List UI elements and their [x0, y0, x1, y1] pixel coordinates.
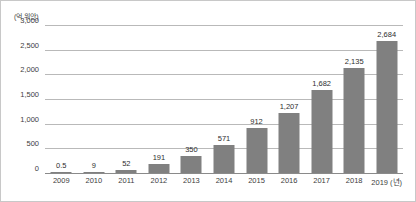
y-tick-label: 1,500	[5, 90, 39, 99]
y-tick-label: 2,000	[5, 65, 39, 74]
y-tick-label: 3,000	[5, 16, 39, 25]
bar-value-label: 2,135	[345, 57, 364, 66]
bar-slot: 1,207	[273, 25, 306, 173]
x-axis-line	[45, 173, 403, 174]
bar-value-label: 350	[185, 145, 198, 154]
bar-value-label: 0.5	[56, 161, 66, 170]
bar	[83, 172, 104, 173]
bar-slot: 52	[110, 25, 143, 173]
x-tick-label: 2017	[313, 176, 330, 185]
bar	[246, 128, 267, 173]
x-tick-label: 2019 (년)	[371, 176, 402, 187]
bar-value-label: 912	[250, 117, 263, 126]
x-tick-label: 2010	[85, 176, 102, 185]
bar-slot: 2,684	[370, 25, 403, 173]
y-tick-label: 2,500	[5, 40, 39, 49]
bar-value-label: 9	[92, 161, 96, 170]
bar	[51, 172, 72, 173]
bar-slot: 571	[208, 25, 241, 173]
bars-group: 0.59521913505719121,2071,6822,1352,684	[45, 25, 403, 173]
bar-value-label: 571	[218, 134, 231, 143]
bar-value-label: 191	[153, 153, 166, 162]
x-tick-label: 2018	[346, 176, 363, 185]
bar-slot: 350	[175, 25, 208, 173]
x-tick-label: 2009	[53, 176, 70, 185]
bar-slot: 912	[240, 25, 273, 173]
bar-slot: 2,135	[338, 25, 371, 173]
x-tick-label: 2012	[151, 176, 168, 185]
x-tick-label: 2011	[118, 176, 134, 185]
x-tick-label: 2013	[183, 176, 200, 185]
bar-slot: 191	[143, 25, 176, 173]
bar	[279, 113, 300, 173]
x-axis-labels: 2009201020112012201320142015201620172018…	[45, 176, 403, 192]
bar-value-label: 2,684	[377, 30, 396, 39]
bar	[181, 156, 202, 173]
bar-slot: 1,682	[305, 25, 338, 173]
x-tick-label: 2016	[281, 176, 298, 185]
bar	[116, 170, 137, 173]
bar	[148, 164, 169, 173]
bar-slot: 0.5	[45, 25, 78, 173]
bar	[376, 41, 397, 173]
x-tick-label: 2015	[248, 176, 265, 185]
x-tick-label: 2014	[216, 176, 233, 185]
bar-value-label: 1,682	[312, 79, 331, 88]
y-tick-label: 500	[5, 139, 39, 148]
y-tick-label: 0	[5, 164, 39, 173]
bar-value-label: 1,207	[280, 102, 299, 111]
bar	[311, 90, 332, 173]
bar	[344, 68, 365, 173]
bar-chart: (억 위안) 05001,0001,5002,0002,5003,000 0.5…	[0, 0, 416, 202]
plot-area: 05001,0001,5002,0002,5003,000 0.59521913…	[45, 25, 403, 173]
y-tick-label: 1,000	[5, 114, 39, 123]
bar-slot: 9	[78, 25, 111, 173]
bar-value-label: 52	[122, 159, 130, 168]
bar	[213, 145, 234, 173]
